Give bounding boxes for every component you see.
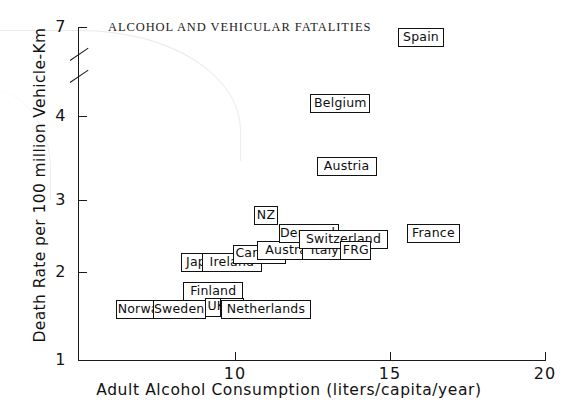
- data-point-frg: FRG: [340, 241, 371, 260]
- x-tick-20: [545, 352, 546, 361]
- y-tick-2: [78, 272, 87, 273]
- x-axis-title: Adult Alcohol Consumption (liters/capita…: [0, 381, 578, 399]
- data-point-spain: Spain: [398, 28, 444, 47]
- x-axis-line: [78, 360, 545, 361]
- data-point-nz: NZ: [254, 206, 278, 225]
- x-tick-15: [390, 352, 391, 361]
- data-point-netherlands: Netherlands: [221, 300, 310, 319]
- data-point-belgium: Belgium: [310, 94, 370, 113]
- y-tick-4: [78, 116, 87, 117]
- chart-title: ALCOHOL AND VEHICULAR FATALITIES: [108, 20, 371, 35]
- data-point-austria: Austria: [317, 157, 377, 176]
- y-tick-3: [78, 200, 87, 201]
- y-tick-7: [78, 27, 87, 28]
- data-point-france: France: [407, 224, 460, 243]
- y-axis-title: Death Rate per 100 million Vehicle-Km: [31, 15, 49, 355]
- y-tick-1: [78, 360, 87, 361]
- y-axis-break-icon: [70, 60, 92, 86]
- x-tick-10: [235, 352, 236, 361]
- data-point-sweden: Sweden: [153, 300, 206, 319]
